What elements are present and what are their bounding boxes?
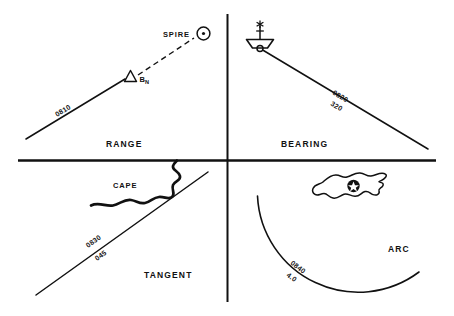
quadrant-label-tangent: TANGENT [144, 270, 193, 280]
spire-circle-dot-icon [197, 27, 210, 40]
cape-label: CAPE [113, 181, 137, 190]
range-lop-line [26, 79, 125, 139]
arc-lop-value-label: 4.0 [285, 271, 298, 283]
tangent-lop-time-label: 0830 [85, 233, 103, 248]
radiobeacon-star-icon [347, 180, 359, 192]
range-sight-dashed-line [138, 38, 194, 75]
beacon-triangle-icon [125, 71, 137, 82]
lightship-icon [247, 21, 274, 52]
quadrant-label-range: RANGE [106, 139, 142, 149]
figure-canvas: B N SPIRE 0810 RANGE [0, 0, 454, 316]
lightship-masthead-star-icon [257, 21, 264, 29]
range-lop-time-label: 0810 [54, 103, 72, 118]
quadrant-arc: 0840 4.0 ARC [258, 173, 420, 292]
bearing-lop-value-label: 320 [329, 100, 343, 112]
quadrant-label-bearing: BEARING [281, 139, 328, 149]
quadrant-range: B N SPIRE 0810 RANGE [26, 27, 210, 149]
quadrant-tangent: 0830 045 CAPE TANGENT [36, 161, 208, 296]
quadrant-label-arc: ARC [388, 244, 410, 254]
lines-of-position-figure: B N SPIRE 0810 RANGE [0, 0, 454, 316]
tangent-lop-value-label: 045 [94, 249, 108, 262]
quadrant-cross-divider [18, 14, 436, 302]
quadrant-bearing: 0820 320 BEARING [247, 21, 429, 150]
spire-label: SPIRE [163, 30, 190, 39]
beacon-sublabel: N [145, 79, 149, 85]
